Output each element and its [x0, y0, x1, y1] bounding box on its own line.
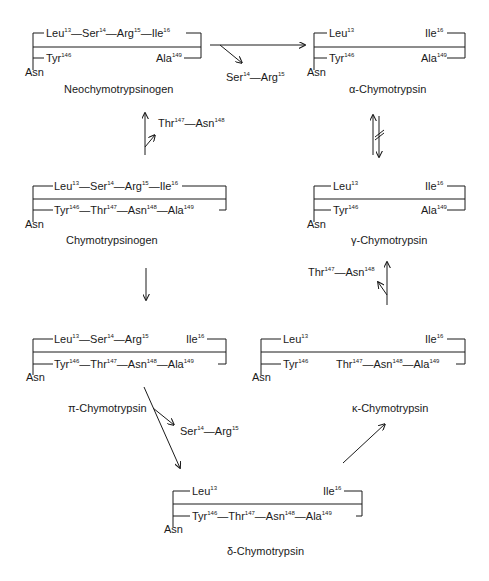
arrow-chymo-to-neo — [145, 113, 155, 155]
alpha-name: α-Chymotrypsin — [349, 83, 426, 95]
neo-terminal: Asn — [25, 66, 44, 78]
pi-terminal: Asn — [26, 371, 45, 383]
kappa-top-left: Leu13 — [283, 333, 308, 345]
delta-terminal: Asn — [164, 523, 183, 535]
arrow-delta-to-kappa — [343, 424, 385, 463]
pi-top-chain: Leu13—Ser14—Arg15 — [54, 333, 149, 345]
kappa-terminal: Asn — [252, 371, 271, 383]
gamma-bottom-left: Tyr146 — [333, 204, 358, 216]
arrow-pi-to-delta — [144, 387, 180, 468]
neo-bottom-left: Tyr146 — [46, 52, 71, 64]
arrow-neo-to-alpha — [210, 45, 305, 63]
chymo-terminal: Asn — [25, 218, 44, 230]
neo-name: Neochymotrypsinogen — [64, 83, 173, 95]
pi-name: π-Chymotrypsin — [68, 402, 147, 414]
delta-top-right: Ile16 — [323, 485, 341, 497]
delta-bottom-chain: Tyr146—Thr147—Asn148—Ala149 — [192, 510, 332, 522]
delta-name: δ-Chymotrypsin — [227, 545, 304, 557]
arrow-alpha-gamma-equilibrium — [373, 115, 384, 157]
chymo-name: Chymotrypsinogen — [66, 234, 158, 246]
chymo-top-chain: Leu13—Ser14—Arg15—Ile16 — [54, 180, 178, 192]
kappa-bottom-chain: Thr147—Asn148—Ala149 — [336, 358, 439, 370]
fragment-thr-asn-2: Thr147—Asn148 — [308, 266, 375, 278]
pi-top-right: Ile16 — [186, 333, 204, 345]
alpha-bottom-left: Tyr146 — [329, 52, 354, 64]
gamma-terminal: Asn — [307, 218, 326, 230]
alpha-top-left: Leu13 — [329, 27, 354, 39]
kappa-bottom-left: Tyr146 — [283, 358, 308, 370]
pi-bottom-chain: Tyr146—Thr147—Asn148—Ala149 — [54, 358, 194, 370]
neo-top-chain: Leu13—Ser14—Arg15—Ile16 — [46, 27, 170, 39]
alpha-top-right: Ile16 — [425, 27, 443, 39]
chymo-bottom-chain: Tyr146—Thr147—Asn148—Ala149 — [54, 204, 194, 216]
arrow-kappa-to-gamma — [378, 262, 387, 305]
alpha-terminal: Asn — [307, 66, 326, 78]
fragment-ser-arg-2: Ser14—Arg15 — [180, 425, 239, 437]
kappa-name: κ-Chymotrypsin — [352, 402, 428, 414]
gamma-top-left: Leu13 — [333, 180, 358, 192]
fragment-ser-arg-1: Ser14—Arg15 — [226, 71, 285, 83]
gamma-name: γ-Chymotrypsin — [351, 234, 427, 246]
alpha-bottom-right: Ala149 — [421, 52, 447, 64]
kappa-top-right: Ile16 — [425, 333, 443, 345]
delta-top-left: Leu13 — [192, 485, 217, 497]
gamma-bottom-right: Ala149 — [421, 204, 447, 216]
gamma-top-right: Ile16 — [425, 180, 443, 192]
fragment-thr-asn-1: Thr147—Asn148 — [158, 117, 225, 129]
neo-bottom-right: Ala149 — [156, 52, 182, 64]
